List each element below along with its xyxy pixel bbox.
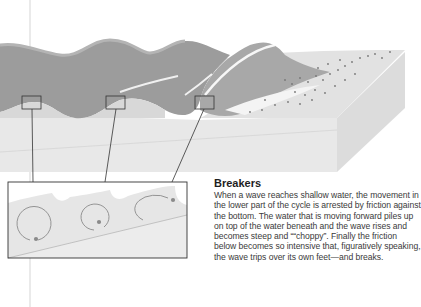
inset-orbit-diagram [8,182,187,258]
caption-body: When a wave reaches shallow water, the m… [214,190,421,262]
caption-title: Breakers [214,177,421,190]
caption: Breakers When a wave reaches shallow wat… [214,177,421,262]
